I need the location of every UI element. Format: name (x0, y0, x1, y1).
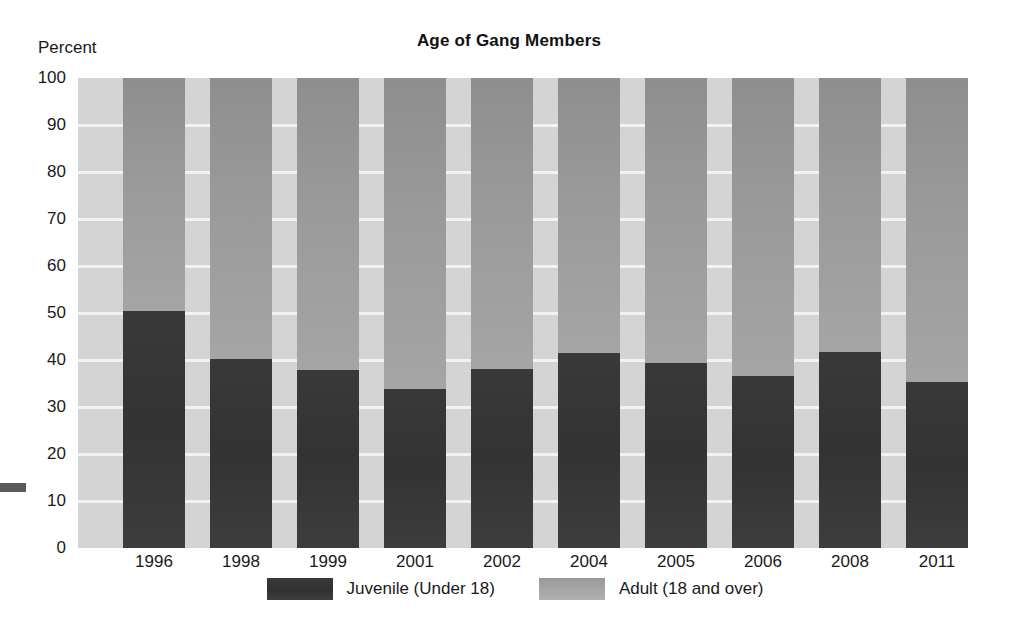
bar-2002 (471, 78, 533, 548)
y-tick-label-60: 60 (8, 256, 66, 276)
chart-legend: Juvenile (Under 18)Adult (18 and over) (0, 578, 1030, 600)
bar-segment-juvenile-2006 (732, 376, 794, 548)
bar-segment-adult-2011 (906, 78, 968, 382)
bar-segment-juvenile-1999 (297, 370, 359, 548)
bar-1996 (123, 78, 185, 548)
legend-item-juvenile: Juvenile (Under 18) (267, 578, 495, 600)
bar-1999 (297, 78, 359, 548)
bar-segment-juvenile-2005 (645, 363, 707, 548)
bar-segment-juvenile-2001 (384, 389, 446, 548)
bar-segment-adult-2008 (819, 78, 881, 352)
plot-area (78, 78, 950, 548)
bar-segment-juvenile-2008 (819, 352, 881, 548)
light-gray-swatch (539, 578, 605, 600)
x-tick-label-2006: 2006 (720, 552, 806, 572)
legend-label-adult: Adult (18 and over) (619, 579, 764, 599)
bar-2004 (558, 78, 620, 548)
legend-item-adult: Adult (18 and over) (539, 578, 764, 600)
bar-segment-adult-2001 (384, 78, 446, 389)
bar-1998 (210, 78, 272, 548)
dark-gray-swatch (267, 578, 333, 600)
y-tick-label-40: 40 (8, 350, 66, 370)
stacked-bar-chart: Percent Age of Gang Members 100908070605… (0, 0, 1030, 640)
bar-segment-juvenile-1998 (210, 359, 272, 548)
bar-segment-adult-1998 (210, 78, 272, 359)
chart-title-text: Age of Gang Members (417, 31, 601, 51)
x-tick-label-2005: 2005 (633, 552, 719, 572)
bar-2005 (645, 78, 707, 548)
bar-segment-juvenile-1996 (123, 311, 185, 548)
bar-2006 (732, 78, 794, 548)
bar-segment-juvenile-2011 (906, 382, 968, 548)
x-tick-label-2011: 2011 (894, 552, 980, 572)
x-tick-label-2002: 2002 (459, 552, 545, 572)
y-tick-label-30: 30 (8, 397, 66, 417)
bar-segment-adult-2002 (471, 78, 533, 369)
x-tick-label-2001: 2001 (372, 552, 458, 572)
legend-label-juvenile: Juvenile (Under 18) (347, 579, 495, 599)
bar-segment-juvenile-2004 (558, 353, 620, 548)
bar-segment-adult-2004 (558, 78, 620, 353)
x-tick-label-2004: 2004 (546, 552, 632, 572)
bar-segment-adult-1996 (123, 78, 185, 311)
y-tick-label-100: 100 (8, 68, 66, 88)
bar-2001 (384, 78, 446, 548)
bar-2011 (906, 78, 968, 548)
x-tick-label-1996: 1996 (111, 552, 197, 572)
y-tick-label-90: 90 (8, 115, 66, 135)
bar-2008 (819, 78, 881, 548)
x-tick-label-1999: 1999 (285, 552, 371, 572)
bar-segment-adult-2006 (732, 78, 794, 376)
y-tick-label-80: 80 (8, 162, 66, 182)
y-tick-label-50: 50 (8, 303, 66, 323)
bar-segment-adult-1999 (297, 78, 359, 370)
bar-segment-adult-2005 (645, 78, 707, 363)
x-tick-label-1998: 1998 (198, 552, 284, 572)
chart-title: Age of Gang Members (0, 31, 1030, 51)
y-tick-label-70: 70 (8, 209, 66, 229)
y-tick-label-10: 10 (8, 491, 66, 511)
x-tick-label-2008: 2008 (807, 552, 893, 572)
y-tick-label-0: 0 (8, 538, 66, 558)
bar-segment-juvenile-2002 (471, 369, 533, 548)
y-tick-label-20: 20 (8, 444, 66, 464)
